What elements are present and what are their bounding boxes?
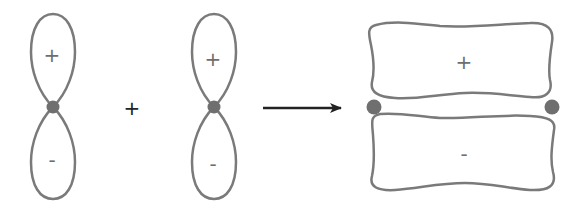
- p-orbital-left: + -: [31, 14, 75, 199]
- nucleus-node-right: [545, 100, 560, 115]
- nucleus-node: [47, 101, 60, 114]
- plus-sign: +: [44, 43, 61, 67]
- plus-sign: +: [205, 47, 222, 71]
- plus-sign: +: [456, 50, 473, 74]
- nucleus-node: [208, 101, 221, 114]
- p-orbital-right: + -: [192, 14, 236, 199]
- minus-sign: -: [460, 142, 467, 166]
- minus-sign: -: [48, 148, 55, 172]
- pi-bonding-orbital: + -: [367, 23, 560, 191]
- nucleus-node-left: [367, 100, 382, 115]
- pi-bond-formation-diagram: + - + + - + -: [0, 0, 586, 214]
- minus-sign: -: [209, 152, 216, 176]
- plus-operator: +: [124, 96, 141, 120]
